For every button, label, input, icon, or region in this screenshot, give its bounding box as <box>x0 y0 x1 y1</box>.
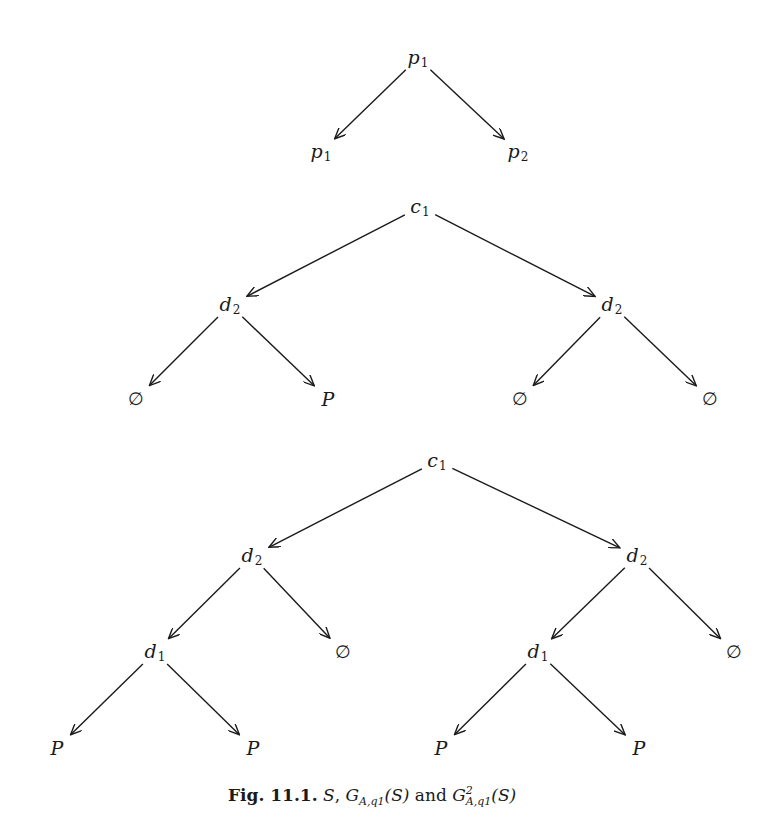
tree-edge-arrow <box>71 664 143 735</box>
tree-node: P <box>633 739 646 758</box>
caption-g1-arg: (S) <box>385 785 410 805</box>
tree-edge-arrow <box>169 568 240 639</box>
tree-edge-arrow <box>269 469 422 548</box>
caption-g2: G <box>452 785 466 805</box>
tree-node: c1 <box>427 451 446 472</box>
tree-edge-arrow <box>552 568 625 639</box>
tree-node: ∅ <box>128 390 144 408</box>
caption-g2-sub: A,q1 <box>466 795 491 808</box>
tree-node: d2 <box>220 295 241 316</box>
tree-edge-arrow <box>624 317 696 386</box>
tree-node: d2 <box>242 546 263 567</box>
caption-label: Fig. 11.1. <box>228 785 318 805</box>
tree-node: P <box>247 739 260 758</box>
tree-node: P <box>322 390 335 409</box>
tree-edges <box>0 0 777 825</box>
tree-node: p1 <box>408 48 429 69</box>
tree-node: ∅ <box>702 390 718 408</box>
tree-node: p2 <box>508 142 529 163</box>
tree-node: c1 <box>410 197 429 218</box>
tree-node: P <box>51 739 64 758</box>
caption-s: S <box>323 785 335 805</box>
tree-edge-arrow <box>452 468 619 548</box>
tree-node: d2 <box>602 295 623 316</box>
caption-g1-sub: A,q1 <box>359 795 384 808</box>
caption-and: and <box>409 785 452 805</box>
tree-node: P <box>435 739 448 758</box>
tree-node: ∅ <box>726 643 742 661</box>
caption-sep: , <box>335 785 346 805</box>
tree-edge-arrow <box>649 568 720 639</box>
tree-edge-arrow <box>430 70 504 139</box>
figure-caption: Fig. 11.1. S, GA,q1(S) and G2A,q1(S) <box>228 784 516 808</box>
tree-edge-arrow <box>435 215 595 297</box>
tree-edge-arrow <box>247 215 405 296</box>
tree-edge-arrow <box>167 664 239 735</box>
tree-edge-arrow <box>455 664 526 735</box>
tree-edge-arrow <box>242 317 314 386</box>
caption-g1: G <box>345 785 359 805</box>
tree-edge-arrow <box>533 317 600 385</box>
tree-node: d1 <box>528 642 549 663</box>
tree-edge-arrow <box>550 664 625 735</box>
caption-g2-arg: (S) <box>491 785 516 805</box>
tree-edge-arrow <box>149 317 218 386</box>
tree-node: d2 <box>627 546 648 567</box>
tree-node: p1 <box>311 142 332 163</box>
tree-node: d1 <box>145 642 166 663</box>
tree-node: ∅ <box>335 643 351 661</box>
tree-edge-arrow <box>264 568 330 638</box>
tree-node: ∅ <box>512 390 528 408</box>
tree-edge-arrow <box>335 70 406 139</box>
